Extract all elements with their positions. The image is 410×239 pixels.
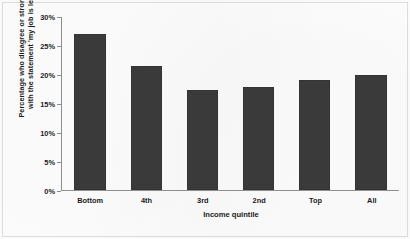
x-axis-line — [61, 190, 399, 191]
x-tick-label: 4th — [118, 196, 174, 205]
bar-slot — [343, 17, 399, 190]
y-axis-title-line-1: Percentage who disagree or strongly disa… — [18, 0, 26, 118]
bar[interactable] — [187, 90, 218, 190]
bar[interactable] — [131, 66, 162, 190]
plot-area: 30%25%20%15%10%5%0% — [61, 17, 399, 191]
x-tick-label: Top — [287, 196, 343, 205]
bar-slot — [287, 17, 343, 190]
y-tick-mark — [57, 162, 61, 163]
x-tick-label: All — [344, 196, 400, 205]
bar[interactable] — [355, 75, 386, 190]
y-tick-mark — [57, 104, 61, 105]
y-tick-label: 30% — [40, 13, 55, 22]
bar-slot — [62, 17, 118, 190]
y-axis-title: Percentage who disagree or strongly disa… — [18, 0, 35, 121]
x-axis-title: Income quintile — [62, 210, 400, 219]
x-tick-label: 3rd — [175, 196, 231, 205]
bar[interactable] — [74, 34, 105, 190]
y-tick-mark — [57, 191, 61, 192]
bar[interactable] — [299, 80, 330, 190]
y-tick-mark — [57, 17, 61, 18]
x-tick-label: 2nd — [231, 196, 287, 205]
y-tick-mark — [57, 46, 61, 47]
y-axis-title-line-2: with the statement 'my job is less secur… — [27, 0, 35, 109]
y-tick-label: 15% — [40, 100, 55, 109]
bar-slot — [231, 17, 287, 190]
x-axis-category-labels: Bottom4th3rd2ndTopAll — [62, 196, 400, 205]
y-tick-label: 25% — [40, 42, 55, 51]
y-tick-label: 20% — [40, 71, 55, 80]
x-tick-label: Bottom — [62, 196, 118, 205]
y-tick-label: 5% — [44, 158, 55, 167]
y-tick-label: 0% — [44, 187, 55, 196]
y-tick-label: 10% — [40, 129, 55, 138]
bar-series — [62, 17, 399, 190]
bar[interactable] — [243, 87, 274, 190]
y-tick-mark — [57, 75, 61, 76]
bar-chart-figure: Percentage who disagree or strongly disa… — [0, 0, 410, 239]
y-tick-mark — [57, 133, 61, 134]
bar-slot — [118, 17, 174, 190]
bar-slot — [174, 17, 230, 190]
